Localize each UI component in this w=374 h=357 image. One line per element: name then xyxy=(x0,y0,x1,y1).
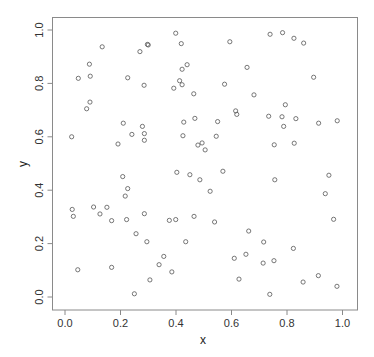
data-point xyxy=(221,169,225,173)
data-point xyxy=(335,284,339,288)
data-point xyxy=(228,40,232,44)
data-point xyxy=(85,107,89,111)
y-axis: 0.00.20.40.60.81.0 xyxy=(33,22,53,304)
data-point xyxy=(237,277,241,281)
data-point xyxy=(292,141,296,145)
data-point xyxy=(261,261,265,265)
data-point xyxy=(125,217,129,221)
data-point xyxy=(280,115,284,119)
data-point xyxy=(302,41,306,45)
data-point xyxy=(98,212,102,216)
data-point xyxy=(212,220,216,224)
y-tick-label: 0.6 xyxy=(33,129,45,144)
data-point xyxy=(294,117,298,121)
data-point xyxy=(142,212,146,216)
data-point xyxy=(91,205,95,209)
data-point xyxy=(188,173,192,177)
data-point xyxy=(208,189,212,193)
data-point xyxy=(282,124,286,128)
data-point xyxy=(170,270,174,274)
data-point xyxy=(180,67,184,71)
data-point xyxy=(134,232,138,236)
x-axis-title: x xyxy=(200,333,206,347)
data-point xyxy=(332,217,336,221)
data-point xyxy=(100,45,104,49)
data-point xyxy=(193,116,197,120)
y-tick-label: 0.2 xyxy=(33,236,45,251)
data-point xyxy=(174,217,178,221)
data-point xyxy=(262,240,266,244)
data-point xyxy=(126,76,130,80)
data-point xyxy=(157,263,161,267)
data-point xyxy=(272,259,276,263)
data-point xyxy=(192,214,196,218)
data-point xyxy=(185,63,189,67)
plot-frame xyxy=(53,18,358,311)
data-point xyxy=(179,42,183,46)
data-point xyxy=(167,218,171,222)
y-tick-label: 0.4 xyxy=(33,183,45,198)
y-tick-label: 0.8 xyxy=(33,76,45,91)
data-point xyxy=(198,178,202,182)
data-point xyxy=(244,252,248,256)
data-point xyxy=(76,76,80,80)
data-point xyxy=(123,194,127,198)
data-point xyxy=(71,214,75,218)
data-point xyxy=(327,173,331,177)
x-tick-label: 0.8 xyxy=(279,317,294,329)
data-point xyxy=(232,256,236,260)
data-point xyxy=(138,50,142,54)
data-point xyxy=(174,31,178,35)
data-point xyxy=(214,134,218,138)
data-point xyxy=(245,65,249,69)
data-point xyxy=(162,254,166,258)
data-point xyxy=(182,120,186,124)
data-point xyxy=(121,174,125,178)
data-point xyxy=(312,75,316,79)
data-point xyxy=(291,246,295,250)
data-point xyxy=(70,207,74,211)
x-tick-label: 0.0 xyxy=(57,317,72,329)
data-point xyxy=(222,82,226,86)
x-tick-label: 0.4 xyxy=(168,317,183,329)
data-point xyxy=(267,114,271,118)
data-point xyxy=(110,219,114,223)
data-point xyxy=(316,274,320,278)
data-point xyxy=(184,240,188,244)
data-point xyxy=(140,124,144,128)
data-point xyxy=(142,131,146,135)
data-point xyxy=(335,119,339,123)
data-point xyxy=(142,83,146,87)
data-point xyxy=(88,100,92,104)
data-point xyxy=(268,32,272,36)
data-point xyxy=(110,265,114,269)
data-point xyxy=(192,92,196,96)
data-point xyxy=(323,192,327,196)
data-point xyxy=(180,83,184,87)
data-point xyxy=(273,178,277,182)
data-point xyxy=(301,280,305,284)
x-tick-label: 0.6 xyxy=(224,317,239,329)
scatter-plot: 0.00.20.40.60.81.0 0.00.20.40.60.81.0 x … xyxy=(0,0,374,357)
data-point xyxy=(70,135,74,139)
data-point xyxy=(292,36,296,40)
y-tick-label: 0.0 xyxy=(33,289,45,304)
data-point xyxy=(203,148,207,152)
data-point xyxy=(116,142,120,146)
data-point xyxy=(252,93,256,97)
y-tick-label: 1.0 xyxy=(33,22,45,37)
y-axis-title: y xyxy=(16,161,30,167)
data-point xyxy=(142,138,146,142)
data-point xyxy=(280,31,284,35)
x-axis: 0.00.20.40.60.81.0 xyxy=(57,310,350,329)
data-point xyxy=(283,103,287,107)
data-point xyxy=(216,119,220,123)
data-point xyxy=(132,292,136,296)
data-point xyxy=(247,229,251,233)
data-point xyxy=(172,86,176,90)
data-point xyxy=(105,205,109,209)
data-point xyxy=(88,74,92,78)
x-tick-label: 0.2 xyxy=(113,317,128,329)
data-point xyxy=(200,141,204,145)
data-point xyxy=(272,143,276,147)
